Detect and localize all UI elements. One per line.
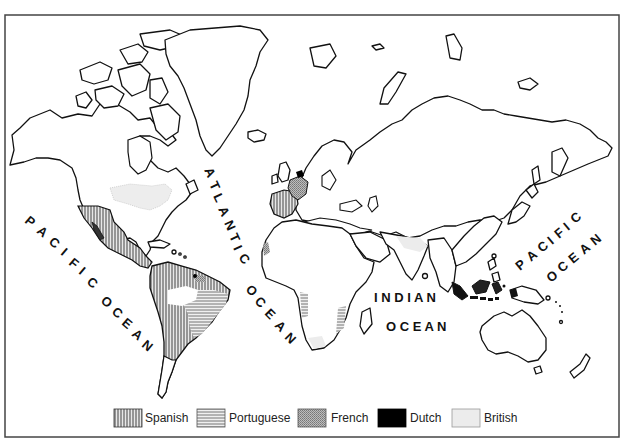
legend-item-french: French	[298, 409, 368, 427]
legend-item-spanish: Spanish	[114, 409, 188, 427]
legend-label: French	[331, 411, 368, 425]
legend-label: Portuguese	[229, 411, 291, 425]
legend-item-portuguese: Portuguese	[197, 409, 291, 427]
legend-label: Spanish	[145, 411, 188, 425]
legend: Spanish Portuguese French Dutch British	[114, 409, 517, 427]
legend-swatch-dutch	[378, 409, 406, 427]
indian-line1: I N D I A N	[374, 290, 436, 305]
world-map: P A C I F I C O C E A N A T L A N T I C …	[0, 0, 623, 440]
legend-swatch-french	[298, 409, 326, 427]
legend-item-dutch: Dutch	[378, 409, 441, 427]
legend-label: Dutch	[410, 411, 441, 425]
legend-label: British	[484, 411, 517, 425]
legend-swatch-portuguese	[197, 409, 225, 427]
legend-item-british: British	[452, 409, 517, 427]
legend-swatch-spanish	[114, 409, 142, 427]
legend-swatch-british	[452, 409, 480, 427]
indian-line2: O C E A N	[386, 319, 446, 334]
